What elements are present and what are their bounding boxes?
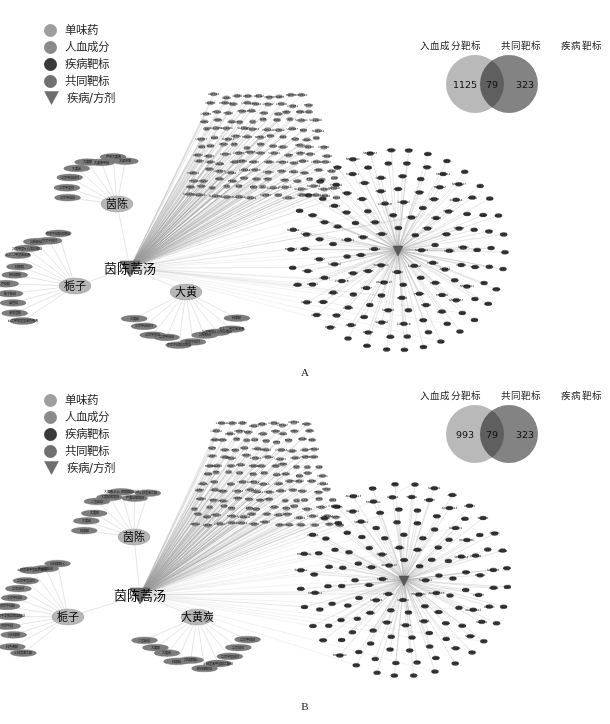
svg-text:MTHFR: MTHFR xyxy=(312,313,322,317)
svg-text:TF: TF xyxy=(412,483,417,487)
svg-text:京尼平苷甘: 京尼平苷甘 xyxy=(42,238,57,243)
svg-text:MAPK3: MAPK3 xyxy=(274,95,284,99)
svg-text:MYCA2: MYCA2 xyxy=(423,226,433,230)
panel-a: 单味药 人血成分 疾病靶标 共同靶标 疾病/方剂 入血成分靶标 共同靶标 疾病靶… xyxy=(0,0,610,362)
svg-text:CASP3: CASP3 xyxy=(205,160,215,164)
svg-text:SLC02A2: SLC02A2 xyxy=(408,264,421,268)
svg-text:EGFR: EGFR xyxy=(291,137,299,141)
svg-text:AKT1: AKT1 xyxy=(261,471,268,475)
svg-text:AR: AR xyxy=(261,185,265,189)
svg-text:TF: TF xyxy=(406,308,411,312)
svg-text:新绿原酸苷: 新绿原酸苷 xyxy=(38,566,53,571)
svg-text:CFH: CFH xyxy=(353,663,359,667)
svg-text:VEGFA: VEGFA xyxy=(198,482,207,486)
svg-text:APOA1: APOA1 xyxy=(437,310,447,314)
svg-text:CP: CP xyxy=(487,265,491,269)
svg-text:CASP7: CASP7 xyxy=(222,96,232,100)
svg-text:大黄酚: 大黄酚 xyxy=(72,166,82,171)
svg-text:ABCG2: ABCG2 xyxy=(294,479,304,483)
svg-text:TTR: TTR xyxy=(413,660,420,664)
svg-text:ATP1A1: ATP1A1 xyxy=(366,565,377,569)
svg-text:A2M: A2M xyxy=(391,674,398,678)
svg-text:大黄炭: 大黄炭 xyxy=(181,610,214,624)
svg-text:PTGS1: PTGS1 xyxy=(304,103,314,107)
svg-text:CASP7: CASP7 xyxy=(195,159,205,163)
svg-text:GALP: GALP xyxy=(378,293,386,297)
svg-text:TF: TF xyxy=(344,255,349,259)
svg-text:RBP4: RBP4 xyxy=(363,344,371,348)
svg-text:C4A: C4A xyxy=(438,340,444,344)
svg-text:UGT1A1: UGT1A1 xyxy=(268,151,280,155)
svg-text:FGB: FGB xyxy=(495,214,501,218)
svg-text:6-乙甲氧基基苯色素素: 6-乙甲氧基基苯色素素 xyxy=(8,318,38,323)
svg-text:ABCA1: ABCA1 xyxy=(434,610,444,614)
svg-text:SLC02A1: SLC02A1 xyxy=(346,509,359,513)
svg-text:F2: F2 xyxy=(501,267,505,271)
svg-text:ABCC2: ABCC2 xyxy=(193,153,203,157)
svg-text:ALB: ALB xyxy=(393,661,399,665)
svg-text:CYP3A4: CYP3A4 xyxy=(225,171,236,175)
svg-text:UGT1A9: UGT1A9 xyxy=(273,128,285,132)
svg-text:AHSG: AHSG xyxy=(334,521,342,525)
svg-text:京尼平苷酸双葡苷: 京尼平苷酸双葡苷 xyxy=(167,342,191,347)
svg-text:ESR1: ESR1 xyxy=(194,512,202,516)
svg-text:CFH: CFH xyxy=(325,584,331,588)
svg-text:NQO1: NQO1 xyxy=(240,446,249,450)
svg-text:大黄酸: 大黄酸 xyxy=(151,645,160,650)
svg-text:MMP9: MMP9 xyxy=(186,185,195,189)
svg-text:ITIH4: ITIH4 xyxy=(309,624,317,628)
svg-text:AFM: AFM xyxy=(344,531,351,535)
svg-text:PTGS2: PTGS2 xyxy=(199,179,209,183)
svg-text:UGT2B7: UGT2B7 xyxy=(286,127,298,131)
svg-text:ATP1B1: ATP1B1 xyxy=(307,282,318,286)
svg-text:CYP1A2: CYP1A2 xyxy=(277,423,288,427)
svg-text:ALB: ALB xyxy=(231,142,237,146)
svg-text:NQO1: NQO1 xyxy=(197,184,206,188)
svg-text:SLC22A1: SLC22A1 xyxy=(295,118,308,122)
svg-text:NQO1: NQO1 xyxy=(228,120,237,124)
svg-text:HBB: HBB xyxy=(405,610,411,614)
svg-text:ESR1: ESR1 xyxy=(296,474,304,478)
svg-text:LTM4: LTM4 xyxy=(316,179,323,183)
svg-text:MMP9: MMP9 xyxy=(218,438,227,442)
svg-text:CASP7: CASP7 xyxy=(195,488,205,492)
svg-text:绿原酸: 绿原酸 xyxy=(80,528,89,533)
svg-text:TP53: TP53 xyxy=(249,472,257,476)
svg-text:SOD1: SOD1 xyxy=(257,142,265,146)
svg-text:KRAS: KRAS xyxy=(463,212,471,216)
svg-text:HBB: HBB xyxy=(417,564,423,568)
svg-text:RNASE2: RNASE2 xyxy=(376,232,388,236)
svg-text:DUSP1: DUSP1 xyxy=(308,213,318,217)
svg-text:RBP4: RBP4 xyxy=(414,521,422,525)
svg-text:MMP9: MMP9 xyxy=(305,429,314,433)
svg-text:ABCA1: ABCA1 xyxy=(328,291,338,295)
svg-text:MRSEH2: MRSEH2 xyxy=(436,293,448,297)
svg-text:PTGS2: PTGS2 xyxy=(224,111,234,115)
svg-text:SLC44A1: SLC44A1 xyxy=(346,172,359,176)
svg-text:FGG: FGG xyxy=(501,232,507,236)
svg-text:TFPI: TFPI xyxy=(384,161,391,165)
svg-text:IL1B: IL1B xyxy=(301,498,307,502)
svg-text:TP53: TP53 xyxy=(266,134,274,138)
svg-text:PTGS2: PTGS2 xyxy=(289,170,299,174)
svg-text:ABCB1: ABCB1 xyxy=(307,479,317,483)
svg-text:立尼甲基苷: 立尼甲基苷 xyxy=(59,185,74,190)
svg-text:CYP3A4: CYP3A4 xyxy=(250,102,261,106)
svg-text:EGFR: EGFR xyxy=(285,438,293,442)
svg-text:PTGS1: PTGS1 xyxy=(277,169,287,173)
svg-text:SLC28A2: SLC28A2 xyxy=(397,200,410,204)
svg-text:SLCO1B3: SLCO1B3 xyxy=(246,127,260,131)
svg-text:CASP3: CASP3 xyxy=(207,454,217,458)
svg-text:MAPK1: MAPK1 xyxy=(302,422,312,426)
svg-text:NFE2L2: NFE2L2 xyxy=(255,135,266,139)
svg-text:F2: F2 xyxy=(347,550,351,554)
svg-text:DUSP1: DUSP1 xyxy=(293,283,303,287)
svg-text:VEGFA: VEGFA xyxy=(281,472,290,476)
svg-text:KRAS: KRAS xyxy=(296,209,304,213)
svg-text:MGV17: MGV17 xyxy=(406,215,417,219)
svg-text:NR1I2: NR1I2 xyxy=(322,487,331,491)
svg-text:CCDC11B: CCDC11B xyxy=(397,322,411,326)
svg-text:C3: C3 xyxy=(373,657,377,661)
svg-text:APOA1: APOA1 xyxy=(451,646,461,650)
svg-text:CYP2D6: CYP2D6 xyxy=(302,145,314,149)
